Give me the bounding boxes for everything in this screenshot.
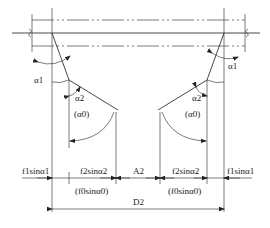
label-f2-right: f2sinα2 (172, 166, 199, 176)
workpiece-lines (12, 14, 260, 52)
label-f0-left: (f0sinα0) (75, 186, 108, 196)
label-alpha0-left: (α0) (74, 109, 89, 119)
tool-angle-dimension-diagram: α1 α1 α2 α2 (α0) (α0) f1sinα1 f2sinα2 (f… (0, 0, 270, 228)
label-alpha0-right: (α0) (185, 109, 200, 119)
label-alpha2-right: α2 (192, 93, 201, 103)
label-alpha2-left: α2 (75, 93, 84, 103)
label-D2: D2 (133, 197, 144, 207)
label-f0-right: (f0sinα0) (168, 186, 201, 196)
label-alpha1-right: α1 (228, 61, 237, 71)
label-alpha1-left: α1 (34, 75, 43, 85)
label-f1-right: f1sinα1 (227, 166, 254, 176)
label-f2-left: f2sinα2 (80, 166, 107, 176)
label-f1-left: f1sinα1 (22, 166, 49, 176)
label-A2: A2 (133, 166, 144, 176)
